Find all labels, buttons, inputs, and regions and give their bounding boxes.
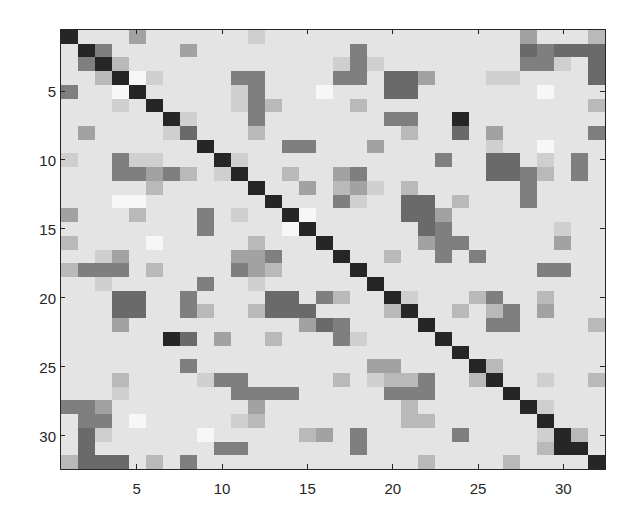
heatmap-cell: [129, 442, 146, 456]
heatmap-cell: [214, 181, 231, 195]
heatmap-cell: [384, 195, 401, 209]
heatmap-cell: [282, 153, 299, 167]
heatmap-cell: [316, 222, 333, 236]
heatmap-cell: [333, 112, 350, 126]
heatmap-cell: [146, 455, 163, 469]
heatmap-cell: [554, 373, 571, 387]
heatmap-cell: [588, 250, 605, 264]
heatmap-cell: [163, 71, 180, 85]
heatmap-cell: [435, 400, 452, 414]
y-tick-mark: [600, 159, 605, 160]
heatmap-cell: [78, 99, 95, 113]
heatmap-cell: [163, 167, 180, 181]
heatmap-cell: [503, 30, 520, 44]
heatmap-cell: [112, 236, 129, 250]
heatmap-cell: [112, 346, 129, 360]
heatmap-cell: [146, 346, 163, 360]
heatmap-cell: [469, 126, 486, 140]
heatmap-cell: [78, 442, 95, 456]
heatmap-cell: [299, 414, 316, 428]
heatmap-cell: [61, 44, 78, 58]
heatmap-cell: [231, 140, 248, 154]
heatmap-cell: [452, 85, 469, 99]
heatmap-cell: [537, 167, 554, 181]
heatmap-cell: [384, 291, 401, 305]
heatmap-cell: [265, 400, 282, 414]
heatmap-cell: [61, 208, 78, 222]
heatmap-cell: [435, 99, 452, 113]
heatmap-cell: [333, 181, 350, 195]
heatmap-cell: [248, 236, 265, 250]
heatmap-cell: [265, 359, 282, 373]
heatmap-cell: [214, 318, 231, 332]
heatmap-cell: [61, 414, 78, 428]
heatmap-cell: [503, 442, 520, 456]
heatmap-cell: [350, 208, 367, 222]
heatmap-cell: [418, 414, 435, 428]
heatmap-cell: [163, 250, 180, 264]
heatmap-cell: [486, 442, 503, 456]
heatmap-cell: [112, 153, 129, 167]
heatmap-cell: [384, 167, 401, 181]
heatmap-cell: [78, 250, 95, 264]
heatmap-cell: [282, 346, 299, 360]
heatmap-cell: [231, 85, 248, 99]
heatmap-cell: [401, 387, 418, 401]
heatmap-cell: [231, 99, 248, 113]
heatmap-cell: [367, 126, 384, 140]
heatmap-cell: [435, 291, 452, 305]
heatmap-cell: [282, 222, 299, 236]
heatmap-cell: [554, 359, 571, 373]
heatmap-cell: [435, 455, 452, 469]
heatmap-cell: [520, 236, 537, 250]
heatmap-cell: [112, 208, 129, 222]
heatmap-cell: [129, 222, 146, 236]
heatmap-cell: [520, 140, 537, 154]
heatmap-cell: [197, 277, 214, 291]
heatmap-cell: [146, 208, 163, 222]
heatmap-cell: [503, 181, 520, 195]
heatmap-cell: [316, 428, 333, 442]
heatmap-cell: [214, 126, 231, 140]
heatmap-cell: [112, 181, 129, 195]
heatmap-cell: [61, 455, 78, 469]
heatmap-cell: [469, 112, 486, 126]
heatmap-cell: [418, 455, 435, 469]
heatmap-cell: [571, 57, 588, 71]
heatmap-cell: [435, 428, 452, 442]
heatmap-cell: [61, 236, 78, 250]
heatmap-cell: [367, 455, 384, 469]
heatmap-cell: [435, 346, 452, 360]
heatmap-cell: [316, 263, 333, 277]
heatmap-cell: [333, 400, 350, 414]
heatmap-cell: [486, 236, 503, 250]
heatmap-cell: [214, 373, 231, 387]
heatmap-cell: [469, 318, 486, 332]
heatmap-cell: [129, 332, 146, 346]
heatmap-cell: [316, 195, 333, 209]
heatmap-cell: [435, 359, 452, 373]
heatmap-cell: [265, 387, 282, 401]
heatmap-cell: [299, 428, 316, 442]
heatmap-cell: [180, 400, 197, 414]
heatmap-cell: [452, 428, 469, 442]
heatmap-cell: [95, 44, 112, 58]
heatmap-cell: [401, 126, 418, 140]
heatmap-cell: [367, 263, 384, 277]
heatmap-cell: [78, 387, 95, 401]
heatmap-cell: [231, 346, 248, 360]
heatmap-cell: [537, 318, 554, 332]
heatmap-cell: [486, 387, 503, 401]
heatmap-cell: [401, 167, 418, 181]
heatmap-cell: [418, 304, 435, 318]
heatmap-cell: [146, 44, 163, 58]
heatmap-cell: [520, 332, 537, 346]
heatmap-cell: [452, 30, 469, 44]
heatmap-cell: [231, 442, 248, 456]
heatmap-cell: [537, 126, 554, 140]
heatmap-cell: [197, 359, 214, 373]
heatmap-cell: [299, 373, 316, 387]
heatmap-cell: [265, 414, 282, 428]
heatmap-cell: [95, 181, 112, 195]
heatmap-cell: [265, 181, 282, 195]
